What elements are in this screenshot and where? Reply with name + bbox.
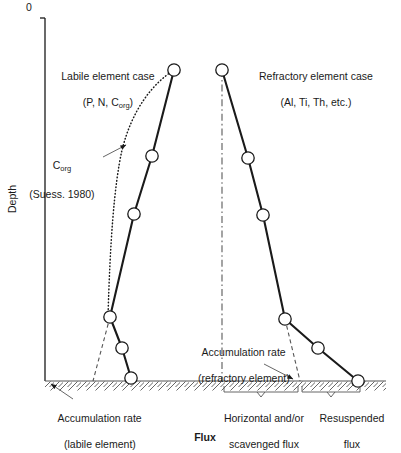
resuspended-flux-label: Resuspended flux bbox=[306, 399, 392, 451]
data-point bbox=[312, 342, 324, 354]
horizontal-flux-line1: Horizontal and/or bbox=[224, 412, 304, 424]
labile-case-subscript: org bbox=[119, 101, 130, 110]
labile-profile-line bbox=[110, 70, 174, 378]
refractory-case-line2: (Al, Ti, Th, etc.) bbox=[280, 96, 351, 108]
resuspended-line2: flux bbox=[344, 438, 360, 450]
y-axis-origin-label: 0 bbox=[26, 1, 32, 13]
accum-labile-line1: Accumulation rate bbox=[58, 412, 142, 424]
data-point bbox=[125, 372, 137, 384]
refractory-accumulation-annotation: Accumulation rate (refractory element) bbox=[186, 333, 296, 385]
labile-case-annotation: Labile element case (P, N, Corg) bbox=[45, 57, 165, 112]
x-axis-label: Flux bbox=[160, 431, 250, 444]
corg-subscript: org bbox=[60, 164, 71, 173]
data-point bbox=[168, 64, 180, 76]
corg-annotation: Corg (Suess. 1980) bbox=[14, 146, 104, 201]
resuspended-line1: Resuspended bbox=[320, 412, 385, 424]
data-point bbox=[116, 342, 128, 354]
labile-case-line1: Labile element case bbox=[61, 70, 154, 82]
accum-refractory-line1: Accumulation rate bbox=[202, 346, 286, 358]
refractory-case-annotation: Refractory element case (Al, Ti, Th, etc… bbox=[238, 57, 388, 109]
data-point bbox=[216, 64, 228, 76]
accum-refractory-line2: (refractory element) bbox=[198, 372, 290, 384]
data-point bbox=[146, 150, 158, 162]
labile-accumulation-dashed-line bbox=[93, 317, 110, 381]
refractory-case-line1: Refractory element case bbox=[259, 70, 373, 82]
labile-case-line2-post: ) bbox=[130, 96, 134, 108]
corg-citation: (Suess. 1980) bbox=[29, 188, 94, 200]
data-point bbox=[128, 208, 140, 220]
accum-labile-line2: (labile element) bbox=[64, 438, 136, 450]
data-point bbox=[242, 152, 254, 164]
labile-case-line2-pre: (P, N, C bbox=[83, 96, 119, 108]
data-point bbox=[279, 313, 291, 325]
data-point bbox=[104, 311, 116, 323]
labile-accumulation-annotation: Accumulation rate (labile element) bbox=[22, 399, 172, 451]
data-point bbox=[257, 209, 269, 221]
data-point bbox=[352, 375, 364, 387]
corg-leader-arrow bbox=[103, 145, 126, 157]
